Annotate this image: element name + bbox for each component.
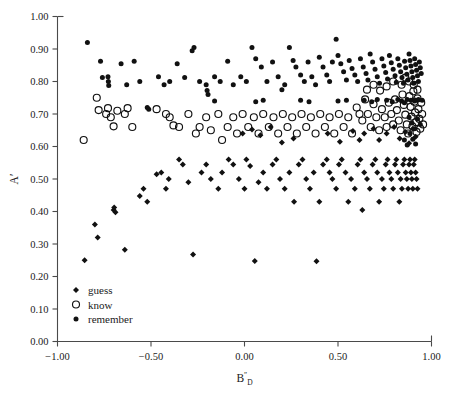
data-point-guess — [401, 157, 407, 163]
data-point-guess — [236, 176, 242, 182]
data-point-remember — [361, 64, 366, 69]
data-point-remember — [98, 59, 103, 64]
data-point-remember — [100, 75, 105, 80]
data-point-know — [376, 127, 383, 134]
data-point-guess — [381, 186, 387, 192]
data-point-remember — [264, 79, 269, 84]
data-point-know — [203, 114, 210, 121]
data-point-guess — [243, 157, 249, 163]
data-point-remember — [270, 60, 275, 65]
data-point-remember — [119, 61, 124, 66]
data-point-know — [219, 137, 226, 144]
data-point-guess — [336, 161, 342, 167]
data-point-guess — [352, 186, 358, 192]
data-point-remember — [156, 74, 161, 79]
data-point-guess — [264, 186, 270, 192]
data-point-guess — [359, 207, 365, 213]
y-tick-label: 0.80 — [30, 76, 48, 87]
data-point-remember — [381, 63, 386, 68]
data-point-know — [331, 130, 338, 137]
data-point-remember — [124, 82, 129, 87]
data-point-remember — [379, 56, 384, 61]
data-point-guess — [219, 170, 225, 176]
y-tick-label: 1.00 — [30, 11, 48, 22]
legend-marker-guess — [73, 287, 79, 293]
data-point-guess — [355, 161, 361, 167]
data-point-remember — [350, 66, 355, 71]
data-point-remember — [401, 81, 406, 86]
data-point-remember — [249, 45, 254, 50]
data-point-know — [289, 114, 296, 121]
data-point-remember — [358, 56, 363, 61]
data-point-know — [270, 114, 277, 121]
data-point-guess — [215, 186, 221, 192]
data-point-guess — [384, 131, 390, 137]
data-point-remember — [298, 73, 303, 78]
data-point-remember — [253, 56, 258, 61]
data-point-remember — [405, 142, 410, 147]
data-point-remember — [259, 64, 264, 69]
data-point-remember — [212, 99, 217, 104]
y-axis-title: A′ — [8, 174, 20, 185]
data-point-remember — [204, 82, 209, 87]
data-point-remember — [146, 107, 151, 112]
data-point-guess — [412, 157, 418, 163]
series-guess — [82, 124, 421, 264]
data-point-remember — [407, 131, 412, 136]
data-point-remember — [393, 73, 398, 78]
data-point-remember — [405, 77, 410, 82]
x-tick-label: −0.50 — [139, 351, 163, 362]
data-point-know — [321, 124, 328, 131]
data-point-guess — [361, 131, 367, 137]
x-tick-label: −1.00 — [45, 351, 69, 362]
chart-legend: guessknowremember — [73, 284, 133, 325]
data-point-guess — [282, 186, 288, 192]
data-point-know — [399, 91, 406, 98]
data-point-remember — [365, 77, 370, 82]
data-point-guess — [277, 176, 283, 182]
data-point-guess — [337, 139, 343, 145]
data-point-guess — [379, 176, 385, 182]
legend-label-know: know — [88, 299, 113, 311]
data-point-know — [383, 124, 390, 131]
data-point-guess — [296, 161, 302, 167]
data-point-guess — [176, 157, 182, 163]
data-point-remember — [218, 79, 223, 84]
data-point-remember — [418, 122, 423, 127]
data-point-remember — [403, 65, 408, 70]
data-point-know — [275, 130, 282, 137]
data-point-remember — [334, 37, 339, 42]
data-point-guess — [242, 186, 248, 192]
legend-label-remember: remember — [88, 313, 133, 325]
data-point-know — [373, 114, 380, 121]
data-point-remember — [317, 55, 322, 60]
data-point-know — [284, 124, 291, 131]
data-point-remember — [390, 99, 395, 104]
data-point-guess — [270, 161, 276, 167]
data-point-remember — [364, 71, 369, 76]
data-point-remember — [418, 65, 423, 70]
data-point-remember — [309, 74, 314, 79]
data-point-remember — [411, 81, 416, 86]
data-point-know — [207, 127, 214, 134]
data-point-know — [293, 130, 300, 137]
axis-spines — [58, 17, 432, 342]
data-point-know — [279, 111, 286, 118]
data-point-know — [364, 111, 371, 118]
data-point-guess — [348, 176, 354, 182]
data-point-guess — [185, 179, 191, 185]
data-point-guess — [414, 186, 420, 192]
data-point-remember — [105, 74, 110, 79]
data-point-guess — [203, 161, 209, 167]
y-tick-label: 0.10 — [30, 304, 48, 315]
data-point-remember — [385, 76, 390, 81]
data-point-guess — [226, 157, 232, 163]
data-point-remember — [132, 59, 137, 64]
data-point-guess — [399, 186, 405, 192]
data-point-know — [317, 111, 324, 118]
data-point-guess — [372, 157, 378, 163]
data-point-know — [110, 123, 117, 130]
data-point-remember — [167, 79, 172, 84]
data-point-guess — [411, 161, 417, 167]
data-point-remember — [175, 61, 180, 66]
